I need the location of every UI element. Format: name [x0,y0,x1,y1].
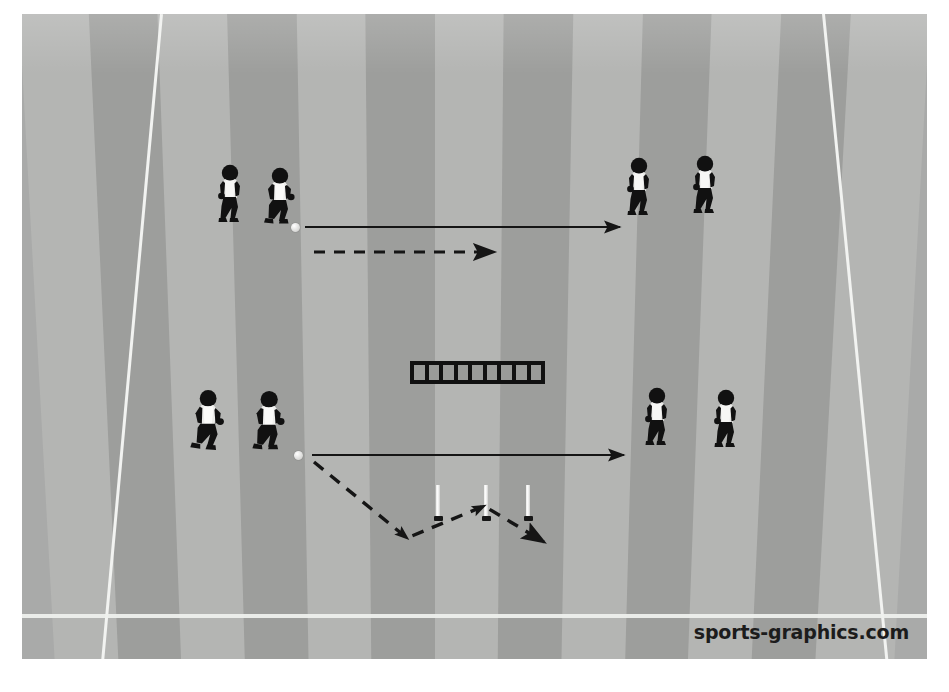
ladder-rung [443,365,458,380]
player-silhouette [244,389,292,454]
watermark: sports-graphics.com [694,621,909,643]
goal-line [22,614,927,618]
ladder-rung [516,365,531,380]
slalom-pole-2 [482,485,491,521]
player-bottom-left-1 [184,389,232,454]
player-bottom-left-2 [244,389,292,454]
ladder-rung [429,365,444,380]
player-top-left-2 [256,166,302,228]
pole-base [482,516,491,521]
player-bottom-right-1 [635,386,681,448]
slalom-pole-1 [434,485,443,521]
slalom-pole-3 [524,485,533,521]
pole-shaft [526,485,530,516]
ball-bottom [294,451,303,460]
player-silhouette [704,388,750,450]
drill-diagram: sports-graphics.com [0,0,949,692]
player-silhouette [184,389,232,454]
player-top-left-1 [208,163,254,225]
player-silhouette [208,163,254,225]
pole-shaft [484,485,488,516]
ladder-rung [414,365,429,380]
pitch-surface: sports-graphics.com [22,14,927,659]
pole-shaft [436,485,440,516]
player-top-right-1 [617,156,663,218]
ladder-rung [487,365,502,380]
player-silhouette [635,386,681,448]
ladder-rung [458,365,473,380]
player-silhouette [617,156,663,218]
player-silhouette [683,154,729,216]
ladder-rung [531,365,542,380]
agility-ladder [410,361,545,384]
ladder-rung [501,365,516,380]
player-top-right-2 [683,154,729,216]
pole-base [434,516,443,521]
pole-base [524,516,533,521]
ladder-rung [472,365,487,380]
player-silhouette [256,166,302,228]
player-bottom-right-2 [704,388,750,450]
